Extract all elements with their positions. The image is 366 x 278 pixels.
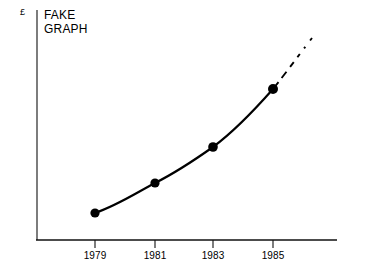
data-point-1983: [208, 142, 218, 152]
y-axis-currency-label: £: [20, 7, 25, 18]
data-point-1981: [150, 178, 159, 187]
chart-canvas: [0, 0, 366, 278]
x-tick-label-1985: 1985: [262, 250, 285, 262]
x-tick-label-1983: 1983: [202, 250, 225, 262]
data-point-1985: [268, 84, 278, 94]
fake-graph-figure: £ FAKE GRAPH 1979 1981 1983 1985: [0, 0, 366, 278]
chart-title: FAKE GRAPH: [44, 8, 88, 36]
plot-background: [0, 0, 366, 278]
x-tick-label-1979: 1979: [84, 250, 107, 262]
data-point-1979: [90, 208, 99, 217]
x-tick-label-1981: 1981: [144, 250, 167, 262]
